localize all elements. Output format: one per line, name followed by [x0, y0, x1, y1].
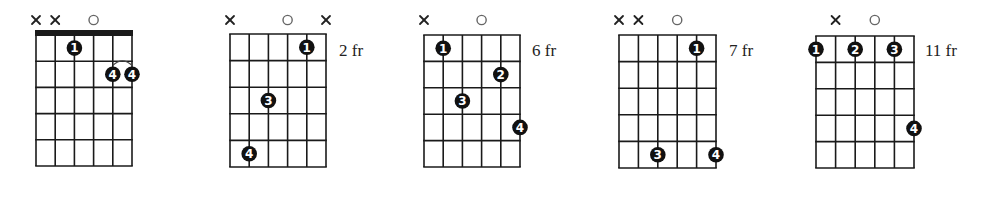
finger-dot: 3: [887, 41, 903, 57]
open-string-o-icon: [870, 15, 879, 24]
svg-text:4: 4: [910, 122, 918, 136]
chord-grid: 1234: [0, 0, 994, 198]
finger-dot: 1: [808, 41, 824, 57]
fret-position-label: 11 fr: [925, 41, 957, 61]
svg-text:2: 2: [851, 43, 859, 57]
svg-text:3: 3: [890, 43, 898, 57]
svg-text:1: 1: [812, 43, 820, 57]
finger-dot: 2: [847, 41, 863, 57]
muted-string-x-icon: [832, 16, 840, 24]
chord-diagram-5: 1234 11 fr: [0, 0, 994, 198]
finger-dot: 4: [906, 121, 922, 137]
